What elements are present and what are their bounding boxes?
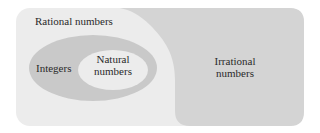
irrational-label: Irrational numbers: [205, 55, 265, 79]
natural-label-line1: Natural: [88, 53, 138, 65]
natural-label-line2: numbers: [88, 65, 138, 77]
integers-label: Integers: [36, 62, 71, 74]
rational-label: Rational numbers: [35, 15, 113, 27]
natural-label: Natural numbers: [88, 53, 138, 77]
irrational-label-line2: numbers: [205, 67, 265, 79]
irrational-label-line1: Irrational: [205, 55, 265, 67]
